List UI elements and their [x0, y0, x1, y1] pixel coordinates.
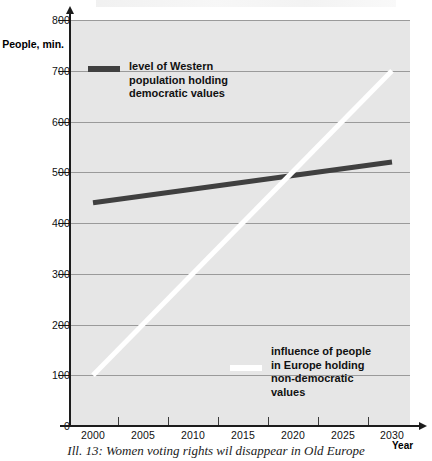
- legend-swatch-democratic: [88, 66, 120, 72]
- x-tick-label-2015: 2015: [218, 429, 268, 441]
- y-axis-ticks: 800 700 600 500 400 300 200 100 0: [0, 0, 70, 461]
- y-tick-label-100: 100: [24, 369, 70, 381]
- x-tick-mark-1: [118, 417, 119, 425]
- x-axis-line: [60, 425, 420, 427]
- legend-label-nondemocratic: influence of people in Europe holding no…: [271, 345, 371, 399]
- x-tick-label-2025: 2025: [318, 429, 368, 441]
- chart-figure: 800 700 600 500 400 300 200 100 0 People…: [0, 0, 432, 461]
- series-line-democratic: [93, 162, 392, 203]
- y-axis-title: People, min.: [2, 38, 64, 50]
- legend-label-democratic: level of Western population holding demo…: [129, 60, 228, 101]
- figure-caption: Ill. 13: Women voting rights wil disappe…: [0, 443, 432, 459]
- page-header-strip: [96, 0, 396, 7]
- legend-item-democratic: level of Western population holding demo…: [88, 60, 228, 101]
- x-tick-mark-6: [368, 417, 369, 425]
- y-tick-label-500: 500: [24, 166, 70, 178]
- x-tick-mark-3: [218, 417, 219, 425]
- x-tick-mark-4: [268, 417, 269, 425]
- x-tick-label-2010: 2010: [168, 429, 218, 441]
- x-tick-label-2000: 2000: [68, 429, 118, 441]
- x-tick-label-2005: 2005: [118, 429, 168, 441]
- legend-item-nondemocratic: influence of people in Europe holding no…: [230, 345, 371, 399]
- x-tick-mark-2: [168, 417, 169, 425]
- x-tick-mark-5: [318, 417, 319, 425]
- y-tick-label-300: 300: [24, 268, 70, 280]
- x-axis-arrow-icon: [419, 422, 427, 430]
- y-tick-label-700: 700: [24, 65, 70, 77]
- series-line-nondemocratic: [93, 71, 392, 376]
- y-tick-label-400: 400: [24, 217, 70, 229]
- legend-swatch-nondemocratic: [230, 365, 262, 371]
- y-tick-label-600: 600: [24, 116, 70, 128]
- y-tick-label-200: 200: [24, 319, 70, 331]
- x-tick-label-2020: 2020: [268, 429, 318, 441]
- y-tick-label-800: 800: [24, 14, 70, 26]
